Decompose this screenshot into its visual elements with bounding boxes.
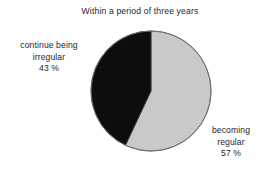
pie-chart-figure: Within a period of three years continue … [0,0,280,175]
pie-label-continue-being-irregular: continue being irregular 43 % [6,40,92,75]
pie-label-regular-line1: becoming [186,125,276,137]
pie-label-irregular-line1: continue being [6,40,92,52]
pie-label-irregular-line2: irregular [6,52,92,64]
pie-label-regular-value: 57 % [186,148,276,160]
pie-label-becoming-regular: becoming regular 57 % [186,125,276,160]
pie-label-irregular-value: 43 % [6,63,92,75]
pie-label-regular-line2: regular [186,137,276,149]
